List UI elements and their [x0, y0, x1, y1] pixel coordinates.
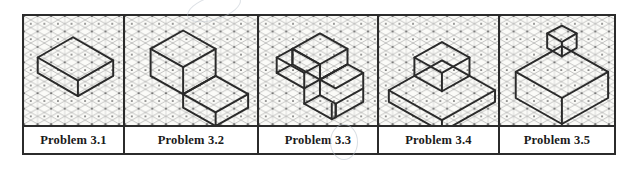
caption-problem-3-5: Problem 3.5 [500, 127, 614, 153]
object-problem-3-3 [259, 16, 377, 125]
panel-problem-3-5[interactable] [500, 16, 614, 125]
caption-problem-3-1: Problem 3.1 [24, 127, 125, 153]
iso-grid-panel-1 [24, 16, 123, 125]
caption-problem-3-2: Problem 3.2 [125, 127, 259, 153]
object-problem-3-1 [24, 16, 123, 125]
iso-grid-panel-3 [259, 16, 377, 125]
iso-grid-panel-5 [500, 16, 614, 125]
figure-sheet: Problem 3.1 Problem 3.2 Problem 3.3 Prob… [0, 0, 639, 171]
problem-strip-table: Problem 3.1 Problem 3.2 Problem 3.3 Prob… [22, 14, 616, 155]
panel-problem-3-3[interactable] [259, 16, 379, 125]
panel-problem-3-2[interactable] [125, 16, 259, 125]
object-problem-3-5 [500, 16, 614, 125]
caption-row: Problem 3.1 Problem 3.2 Problem 3.3 Prob… [24, 125, 614, 153]
caption-problem-3-4: Problem 3.4 [379, 127, 500, 153]
panels-row [24, 16, 614, 125]
object-problem-3-4 [379, 16, 498, 125]
panel-problem-3-1[interactable] [24, 16, 125, 125]
iso-grid-panel-4 [379, 16, 498, 125]
iso-grid-panel-2 [125, 16, 257, 125]
panel-problem-3-4[interactable] [379, 16, 500, 125]
caption-problem-3-3: Problem 3.3 [259, 127, 379, 153]
object-problem-3-2 [125, 16, 257, 125]
